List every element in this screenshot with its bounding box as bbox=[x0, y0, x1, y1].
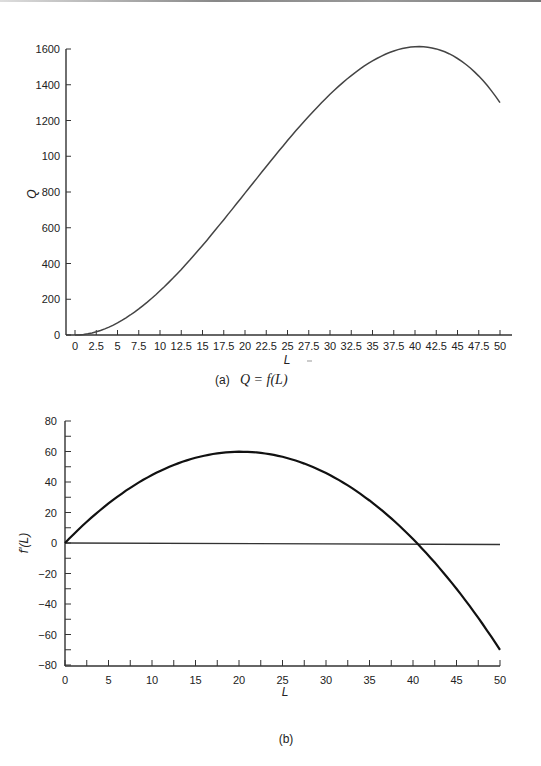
y-tick-label: −80 bbox=[38, 659, 57, 671]
x-tick-label: 20 bbox=[239, 340, 251, 352]
y-axis-title: Q bbox=[25, 189, 39, 198]
y-tick-label: 40 bbox=[45, 476, 57, 488]
y-tick-label: 800 bbox=[42, 186, 60, 198]
y-tick-label: 1200 bbox=[36, 115, 60, 127]
x-tick-label: 27.5 bbox=[298, 340, 319, 352]
y-tick-label: −40 bbox=[38, 598, 57, 610]
x-tick-label: 20 bbox=[233, 674, 245, 686]
x-tick-label: 5 bbox=[105, 674, 111, 686]
x-axis-title: L bbox=[282, 685, 289, 699]
x-tick-label: 47.5 bbox=[468, 340, 489, 352]
x-tick-label: 37.5 bbox=[383, 340, 404, 352]
x-tick-label: 45 bbox=[450, 674, 462, 686]
x-tick-label: 45 bbox=[451, 340, 463, 352]
q-curve bbox=[75, 47, 500, 335]
x-tick-label: 0 bbox=[62, 674, 68, 686]
y-tick-label: 100 bbox=[42, 150, 60, 162]
x-tick-label: 12.5 bbox=[171, 340, 192, 352]
x-tick-label: 15 bbox=[196, 340, 208, 352]
y-tick-label: 1400 bbox=[36, 79, 60, 91]
x-tick-label: 25 bbox=[281, 340, 293, 352]
y-tick-label: 400 bbox=[42, 258, 60, 270]
x-tick-label: 2.5 bbox=[89, 340, 104, 352]
x-tick-label: 40 bbox=[407, 674, 419, 686]
x-tick-label: 10 bbox=[154, 340, 166, 352]
chart-a: 020040060080010012001400160002.557.51012… bbox=[25, 43, 512, 388]
x-tick-label: 10 bbox=[146, 674, 158, 686]
caption-b: (b) bbox=[279, 732, 294, 746]
x-tick-label: 42.5 bbox=[426, 340, 447, 352]
x-tick-label: 50 bbox=[494, 674, 506, 686]
y-tick-label: 200 bbox=[42, 293, 60, 305]
x-tick-label: 35 bbox=[366, 340, 378, 352]
x-tick-label: 17.5 bbox=[213, 340, 234, 352]
y-tick-label: −20 bbox=[38, 568, 57, 580]
x-axis-title: L bbox=[284, 353, 291, 367]
chart-b: 806040200−20−40−60−800510152025303540455… bbox=[17, 415, 506, 746]
x-tick-label: 32.5 bbox=[341, 340, 362, 352]
x-tick-label: 0 bbox=[72, 340, 78, 352]
y-tick-label: 20 bbox=[45, 507, 57, 519]
y-tick-label: 1600 bbox=[36, 43, 60, 55]
y-tick-label: 600 bbox=[42, 222, 60, 234]
x-tick-label: 40 bbox=[409, 340, 421, 352]
y-axis-title: f'(L) bbox=[17, 533, 31, 553]
x-tick-label: 7.5 bbox=[131, 340, 146, 352]
x-tick-label: 15 bbox=[189, 674, 201, 686]
y-tick-label: 0 bbox=[51, 537, 57, 549]
y-tick-label: 80 bbox=[45, 415, 57, 427]
x-tick-label: 50 bbox=[494, 340, 506, 352]
x-tick-label: 22.5 bbox=[256, 340, 277, 352]
marginal-curve bbox=[65, 452, 500, 650]
x-tick-label: 5 bbox=[114, 340, 120, 352]
y-tick-label: −60 bbox=[38, 629, 57, 641]
zero-line bbox=[65, 543, 500, 545]
y-tick-label: 60 bbox=[45, 446, 57, 458]
x-tick-label: 30 bbox=[324, 340, 336, 352]
caption-a-formula: Q = f(L) bbox=[240, 372, 288, 388]
figure: 020040060080010012001400160002.557.51012… bbox=[0, 0, 541, 766]
x-tick-label: 35 bbox=[363, 674, 375, 686]
caption-a: (a) bbox=[215, 373, 230, 387]
y-tick-label: 0 bbox=[54, 329, 60, 341]
x-tick-label: 30 bbox=[320, 674, 332, 686]
